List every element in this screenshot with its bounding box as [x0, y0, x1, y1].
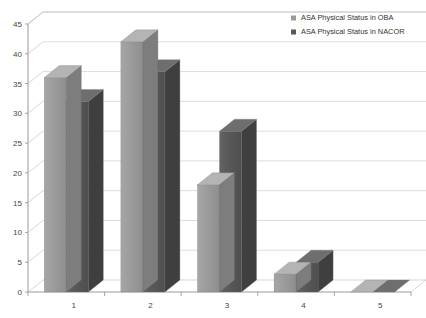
x-axis-tick-label: 5	[378, 301, 383, 310]
y-axis-tick-label: 0	[18, 288, 23, 297]
chart-legend: ASA Physical Status in OBAASA Physical S…	[291, 13, 405, 36]
gridline-depth-connector	[28, 161, 43, 173]
gridline-depth-connector	[28, 191, 43, 203]
legend-item-label[interactable]: ASA Physical Status in NACOR	[301, 27, 405, 36]
chart-canvas: 051015202530354045 12345 ASA Physical St…	[0, 0, 426, 318]
y-axis-tick-label: 10	[13, 228, 22, 237]
floor-right-depth-edge	[411, 280, 426, 292]
gridline-depth-connector	[28, 101, 43, 113]
bar-front-face	[44, 78, 66, 292]
bar-side-face	[143, 30, 158, 292]
legend-swatch	[291, 16, 296, 21]
x-axis-tick-label: 3	[225, 301, 230, 310]
gridline-depth-connector	[28, 220, 43, 232]
bar-front-face	[274, 274, 296, 292]
y-axis-tick-label: 40	[13, 50, 22, 59]
legend-item-label[interactable]: ASA Physical Status in OBA	[301, 13, 393, 22]
bar-front-face	[198, 185, 220, 292]
bar-side-face	[165, 60, 180, 292]
gridline-depth-connector	[28, 72, 43, 84]
bar-side-face	[88, 89, 103, 292]
gridline-depth-connector	[28, 12, 43, 24]
y-axis-tick-label: 25	[13, 139, 22, 148]
gridline-depth-connector	[28, 280, 43, 292]
x-axis-ticks	[28, 292, 411, 296]
gridline-depth-connector	[28, 131, 43, 143]
x-axis-tick-label: 1	[72, 301, 77, 310]
gridline-depth-connector	[28, 42, 43, 54]
y-axis-tick-label: 35	[13, 80, 22, 89]
y-axis-tick-label: 15	[13, 199, 22, 208]
bar-front-face	[121, 42, 143, 292]
x-axis-tick-label: 4	[301, 301, 306, 310]
bar-oba-1	[44, 66, 81, 292]
bar-chart: 051015202530354045 12345 ASA Physical St…	[0, 0, 426, 318]
y-axis-tick-label: 30	[13, 109, 22, 118]
y-axis-tick-label: 5	[18, 258, 23, 267]
bar-side-face	[66, 66, 81, 292]
x-axis-labels: 12345	[72, 301, 383, 310]
x-axis-tick-label: 2	[148, 301, 153, 310]
bar-oba-2	[121, 30, 158, 292]
gridline-depth-connector	[28, 250, 43, 262]
legend-swatch	[291, 30, 296, 35]
y-axis-tick-label: 45	[13, 20, 22, 29]
bar-oba-3	[198, 173, 235, 292]
y-axis-tick-label: 20	[13, 169, 22, 178]
bar-side-face	[220, 173, 235, 292]
bar-side-face	[242, 119, 257, 292]
